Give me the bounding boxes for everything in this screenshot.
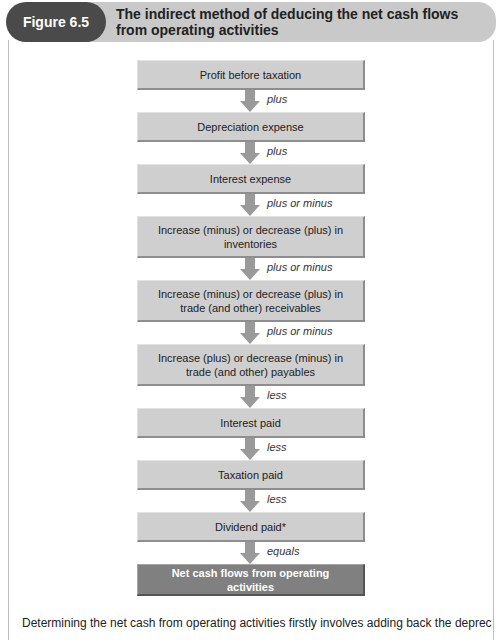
operator-label: less (267, 493, 287, 505)
figure-label: Figure 6.5 (6, 2, 106, 42)
figure-title: The indirect method of deducing the net … (116, 6, 486, 38)
down-arrow-icon (240, 542, 260, 564)
connector: less (137, 438, 365, 460)
operator-label: less (267, 441, 287, 453)
connector: plus (137, 90, 365, 112)
down-arrow-icon (240, 258, 260, 280)
operator-label: plus (267, 145, 287, 157)
step-inventories: Increase (minus) or decrease (plus) in i… (137, 216, 365, 258)
connector: equals (137, 542, 365, 564)
operator-label: equals (267, 545, 299, 557)
connector: less (137, 386, 365, 408)
flowchart: Profit before taxation plus Depreciation… (137, 60, 365, 596)
connector: plus or minus (137, 194, 365, 216)
body-text: Determining the net cash from operating … (22, 616, 492, 630)
step-taxation-paid: Taxation paid (137, 460, 365, 490)
step-profit-before-taxation: Profit before taxation (137, 60, 365, 90)
operator-label: plus or minus (267, 197, 332, 209)
down-arrow-icon (240, 490, 260, 512)
down-arrow-icon (240, 142, 260, 164)
operator-label: less (267, 389, 287, 401)
step-dividend-paid: Dividend paid* (137, 512, 365, 542)
connector: plus or minus (137, 258, 365, 280)
step-depreciation-expense: Depreciation expense (137, 112, 365, 142)
connector: plus (137, 142, 365, 164)
down-arrow-icon (240, 194, 260, 216)
step-payables: Increase (plus) or decrease (minus) in t… (137, 344, 365, 386)
operator-label: plus or minus (267, 325, 332, 337)
down-arrow-icon (240, 386, 260, 408)
connector: less (137, 490, 365, 512)
down-arrow-icon (240, 322, 260, 344)
step-receivables: Increase (minus) or decrease (plus) in t… (137, 280, 365, 322)
operator-label: plus (267, 93, 287, 105)
step-interest-paid: Interest paid (137, 408, 365, 438)
result-net-cash-flows: Net cash flows from operating activities (137, 564, 365, 596)
step-interest-expense: Interest expense (137, 164, 365, 194)
down-arrow-icon (240, 90, 260, 112)
figure-header: Figure 6.5 The indirect method of deduci… (6, 2, 496, 42)
connector: plus or minus (137, 322, 365, 344)
down-arrow-icon (240, 438, 260, 460)
operator-label: plus or minus (267, 261, 332, 273)
